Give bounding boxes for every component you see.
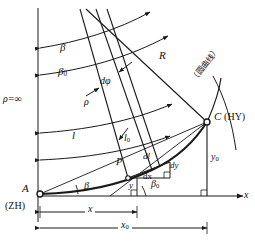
beta0-lower-subscript: 0 [156, 182, 159, 189]
spiral-curve-diagram [0, 0, 255, 244]
beta0-upper-subscript: 0 [63, 70, 67, 78]
beta-upper-label: β [60, 42, 65, 53]
radius-R-label: R [159, 50, 166, 61]
y0-dimension-label: y0 [211, 152, 219, 163]
figure-canvas: ρ=∞ β β0 dφ ρ R l l0 P dl dy dx y β β0 A… [0, 0, 255, 244]
point-C-code-label: (HY) [224, 111, 245, 122]
angle-arcs [40, 12, 172, 160]
beta-angle-mark [76, 185, 78, 194]
point-A-code-label: (ZH) [5, 201, 25, 211]
x-dimension-label: x [85, 204, 95, 214]
beta-lower-label: β [84, 181, 89, 191]
point-C-label: C (HY) [214, 111, 245, 122]
x0-dimension-label: x0 [118, 220, 132, 231]
dl-label: dl [143, 152, 150, 161]
y0-ordinate [201, 122, 207, 196]
x-axis-label: x [244, 190, 248, 200]
y0-subscript: 0 [215, 155, 218, 162]
beta0-lower-label: β0 [151, 179, 159, 190]
point-C-glyph: C [214, 110, 221, 122]
d-phi-label: dφ [100, 76, 111, 86]
point-P-label: P [116, 157, 122, 167]
point-A-label: A [22, 183, 29, 194]
arc-l0-label: l0 [124, 133, 130, 144]
beta0-upper-label: β0 [58, 66, 67, 79]
dy-label: dy [170, 161, 179, 170]
y-small-label: y [129, 181, 133, 190]
beta0-angle-mark [142, 186, 146, 196]
arc-l-label: l [72, 130, 75, 141]
x0-subscript: 0 [125, 223, 128, 230]
arc-l0-subscript: 0 [127, 136, 130, 143]
rho-label: ρ [84, 97, 89, 107]
rho-infinity-label: ρ=∞ [3, 94, 22, 104]
